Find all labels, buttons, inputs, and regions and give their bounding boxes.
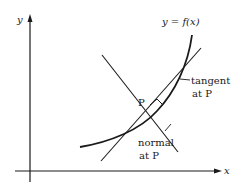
y-axis-arrow-icon	[28, 14, 33, 22]
curve-f	[80, 35, 192, 147]
point-p-label: P	[138, 97, 145, 108]
tangent-label-line1: tangent	[191, 75, 230, 86]
curve-label: y = f(x)	[162, 16, 200, 27]
tangent-normal-diagram: y x y = f(x) P tangent at P normal at P	[0, 0, 240, 189]
normal-label-line1: normal	[138, 137, 174, 148]
normal-label-line2: at P	[139, 150, 159, 161]
tangent-label-line2: at P	[192, 88, 212, 99]
tangent-leader	[180, 79, 190, 80]
normal-leader	[165, 124, 171, 131]
x-axis-label: x	[224, 165, 230, 176]
y-axis-label: y	[17, 14, 23, 25]
x-axis-arrow-icon	[214, 169, 222, 174]
